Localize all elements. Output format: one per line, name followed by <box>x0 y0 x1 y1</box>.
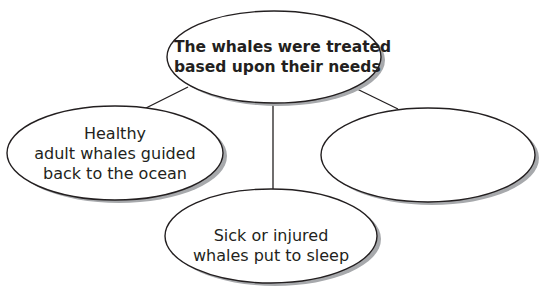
central-node-line-1: The whales were treated <box>174 37 374 57</box>
left-node-line-2: adult whales guided <box>15 144 215 164</box>
web-diagram: The whales were treated based upon their… <box>0 0 547 292</box>
left-node-line-1: Healthy <box>15 124 215 144</box>
central-node-label: The whales were treated based upon their… <box>174 37 374 77</box>
bottom-node-line-1: Sick or injured <box>171 226 371 246</box>
central-node-line-2: based upon their needs <box>174 57 374 77</box>
right-node-ellipse <box>321 108 539 205</box>
connector-line-right <box>357 89 398 109</box>
bottom-node-line-2: whales put to sleep <box>171 246 371 266</box>
bottom-node-label: Sick or injured whales put to sleep <box>171 226 371 266</box>
left-node-line-3: back to the ocean <box>15 164 215 184</box>
connector-line-left <box>146 87 188 108</box>
left-node-label: Healthy adult whales guided back to the … <box>15 124 215 184</box>
